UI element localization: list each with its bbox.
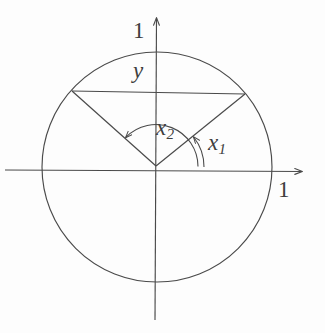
angle-x1-base: x [208, 130, 218, 155]
angle-x2-base: x [156, 115, 166, 140]
angle-x1-subscript: 1 [219, 140, 227, 157]
unit-circle [42, 52, 272, 282]
chord-y [72, 91, 245, 94]
x-axis-unit-tick-label: 1 [278, 178, 290, 201]
angle-x1-label: x1 [208, 131, 226, 156]
unit-circle-diagram: 1 1 y x2 x1 [0, 0, 325, 333]
chord-length-label: y [133, 59, 143, 82]
radius-ray-x2 [72, 91, 156, 166]
diagram-canvas [0, 0, 325, 333]
y-axis-unit-tick-label: 1 [133, 19, 145, 42]
x-axis [5, 170, 302, 172]
angle-x2-subscript: 2 [167, 125, 175, 142]
y-axis [155, 18, 157, 320]
angle-x2-label: x2 [156, 116, 174, 141]
